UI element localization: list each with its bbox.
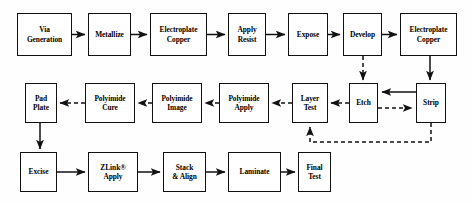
node-via-generation-label: Via Generation [26, 25, 63, 43]
node-laminate[interactable]: Laminate [228, 152, 281, 192]
node-etch[interactable]: Etch [349, 83, 378, 123]
node-layer-test-label: Layer Test [300, 94, 321, 112]
node-excise[interactable]: Excise [20, 152, 57, 192]
node-polyimide-image-label: Polyimide Image [160, 94, 193, 112]
node-strip-label: Strip [422, 98, 440, 107]
node-pad-plate-label: Pad Plate [32, 94, 50, 112]
node-electroplate-copper-1[interactable]: Electroplate Copper [150, 13, 207, 56]
arrow-strip-feedback-to-layer-test [310, 123, 431, 142]
node-develop[interactable]: Develop [343, 13, 382, 56]
node-develop-label: Develop [349, 30, 376, 39]
node-electroplate-copper-1-label: Electroplate Copper [159, 25, 199, 43]
node-polyimide-image[interactable]: Polyimide Image [152, 83, 202, 123]
node-polyimide-apply[interactable]: Polyimide Apply [219, 83, 269, 123]
node-expose[interactable]: Expose [288, 13, 328, 56]
node-apply-resist[interactable]: Apply Resist [228, 13, 266, 56]
node-final-test[interactable]: Final Test [298, 152, 331, 192]
process-flowchart: Via Generation Metallize Electroplate Co… [0, 0, 472, 203]
node-strip[interactable]: Strip [416, 83, 446, 123]
node-polyimide-cure[interactable]: Polyimide Cure [85, 83, 135, 123]
node-electroplate-copper-2[interactable]: Electroplate Copper [400, 13, 457, 56]
node-pad-plate[interactable]: Pad Plate [25, 83, 57, 123]
node-via-generation[interactable]: Via Generation [17, 13, 72, 56]
node-electroplate-copper-2-label: Electroplate Copper [409, 25, 449, 43]
node-polyimide-cure-label: Polyimide Cure [93, 94, 126, 112]
node-zlink-apply[interactable]: ZLink® Apply [88, 152, 138, 192]
node-stack-align-label: Stack & Align [171, 163, 198, 181]
node-polyimide-apply-label: Polyimide Apply [227, 94, 260, 112]
node-etch-label: Etch [355, 98, 372, 107]
node-final-test-label: Final Test [305, 163, 323, 181]
node-stack-align[interactable]: Stack & Align [163, 152, 206, 192]
node-laminate-label: Laminate [239, 167, 271, 176]
node-expose-label: Expose [296, 30, 320, 39]
node-apply-resist-label: Apply Resist [236, 25, 257, 43]
node-layer-test[interactable]: Layer Test [292, 83, 328, 123]
node-metallize[interactable]: Metallize [88, 13, 131, 56]
node-excise-label: Excise [28, 167, 50, 176]
node-metallize-label: Metallize [94, 30, 125, 39]
node-zlink-apply-label: ZLink® Apply [99, 163, 126, 181]
